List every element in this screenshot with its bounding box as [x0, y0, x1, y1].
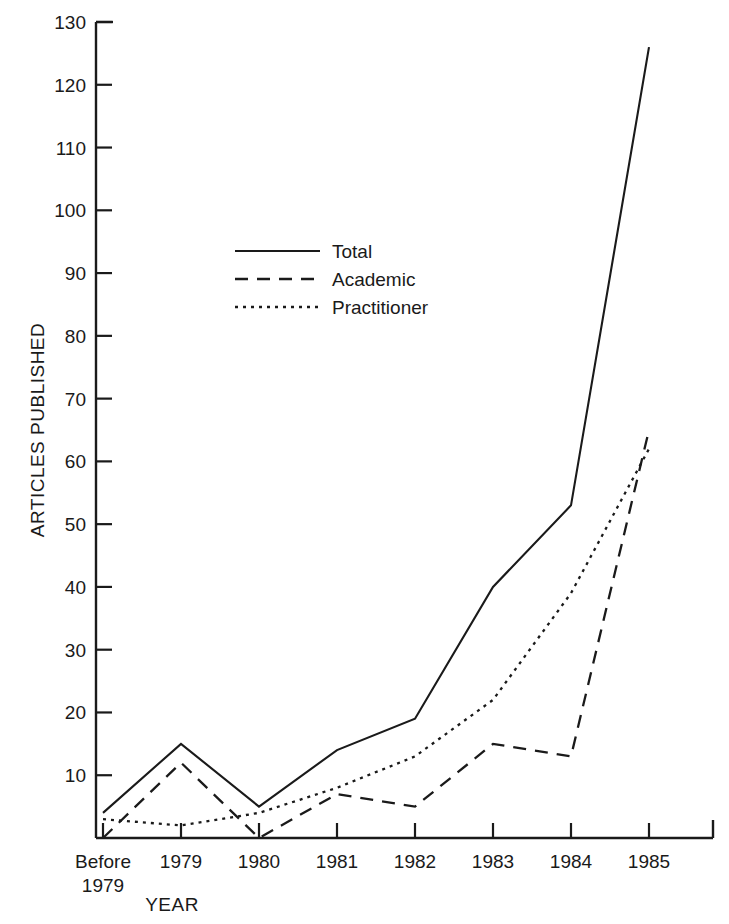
y-tick-label-130: 130 — [54, 12, 86, 33]
x-axis: Before19791979198019811982198319841985 Y… — [75, 22, 713, 915]
x-tick-label-3: 1981 — [316, 851, 358, 872]
x-tick-label-7: 1985 — [628, 851, 670, 872]
series-line-academic — [103, 430, 649, 838]
y-tick-label-120: 120 — [54, 75, 86, 96]
y-tick-label-60: 60 — [65, 451, 86, 472]
x-tick-label-5: 1983 — [472, 851, 514, 872]
legend-label-total: Total — [332, 241, 372, 262]
y-tick-label-80: 80 — [65, 326, 86, 347]
y-tick-label-50: 50 — [65, 514, 86, 535]
x-tick-label-0: Before — [75, 851, 131, 872]
y-tick-label-100: 100 — [54, 200, 86, 221]
chart-legend: TotalAcademicPractitioner — [235, 241, 429, 318]
series-line-total — [103, 47, 649, 813]
legend-label-practitioner: Practitioner — [332, 297, 429, 318]
y-tick-label-90: 90 — [65, 263, 86, 284]
line-chart-canvas: 102030405060708090100110120130 ARTICLES … — [0, 0, 729, 924]
y-tick-label-70: 70 — [65, 389, 86, 410]
y-tick-label-40: 40 — [65, 577, 86, 598]
y-tick-label-110: 110 — [56, 138, 86, 159]
y-axis-ticks — [96, 22, 112, 775]
x-tick-label-2: 1980 — [238, 851, 280, 872]
x-axis-title: YEAR — [145, 894, 199, 915]
legend-label-academic: Academic — [332, 269, 415, 290]
x-tick-label-6: 1984 — [550, 851, 593, 872]
y-tick-label-30: 30 — [65, 640, 86, 661]
y-tick-label-20: 20 — [65, 702, 86, 723]
y-axis-title: ARTICLES PUBLISHED — [27, 323, 48, 538]
y-axis: 102030405060708090100110120130 ARTICLES … — [27, 12, 112, 838]
y-tick-label-10: 10 — [65, 765, 86, 786]
x-tick-label-0-line2: 1979 — [82, 875, 124, 896]
data-series-layer — [103, 47, 649, 838]
chart-figure: 102030405060708090100110120130 ARTICLES … — [0, 0, 729, 924]
x-axis-tick-labels: Before19791979198019811982198319841985 — [75, 851, 670, 896]
series-line-practitioner — [103, 449, 649, 826]
x-tick-label-4: 1982 — [394, 851, 436, 872]
y-axis-tick-labels: 102030405060708090100110120130 — [54, 12, 86, 786]
x-tick-label-1: 1979 — [160, 851, 202, 872]
